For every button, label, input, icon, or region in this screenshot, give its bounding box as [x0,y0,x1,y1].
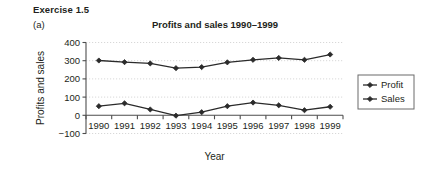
data-point-sales [225,60,230,65]
y-tick-label: 300 [64,55,80,66]
data-point-sales [250,57,255,62]
x-tick-labels: 1990199119921993199419951996199719981999 [88,120,340,131]
y-tick-label: 100 [64,92,80,103]
data-point-sales [96,58,101,63]
data-point-sales [276,55,281,60]
x-tick-label: 1998 [294,120,315,131]
data-point-profit [148,107,153,112]
x-tick-label: 1996 [242,120,263,131]
data-point-profit [302,108,307,113]
data-point-sales [199,64,204,69]
x-tick-label: 1990 [88,120,109,131]
data-point-profit [250,100,255,105]
x-axis-title: Year [204,151,225,162]
legend-label-profit: Profit [381,79,404,90]
x-tick-label: 1999 [320,120,341,131]
data-point-profit [96,104,101,109]
y-axis [83,43,87,134]
data-point-profit [276,103,281,108]
y-tick-label: 0 [75,110,80,121]
x-tick-label: 1991 [114,120,135,131]
series-line-sales [99,55,330,69]
series-line-profit [99,103,330,116]
line-chart: 4003002001000−100 1990199119921993199419… [0,0,439,169]
y-tick-label: −100 [59,128,80,139]
figure-page: Exercise 1.5 (a) Profits and sales 1990–… [0,0,439,169]
x-tick-label: 1994 [191,120,212,131]
x-axis [86,115,343,119]
x-tick-label: 1993 [165,120,186,131]
data-point-profit [199,110,204,115]
y-tick-label: 400 [64,37,80,48]
data-point-sales [328,52,333,57]
data-point-sales [302,57,307,62]
x-tick-label: 1995 [217,120,238,131]
legend-label-sales: Sales [381,93,405,104]
data-point-profit [122,101,127,106]
data-point-sales [148,61,153,66]
legend: ProfitSales [358,75,414,109]
data-point-sales [173,66,178,71]
y-tick-labels: 4003002001000−100 [59,37,80,139]
data-point-profit [328,104,333,109]
data-point-profit [173,113,178,118]
data-point-profit [225,104,230,109]
x-tick-label: 1997 [268,120,289,131]
y-axis-title: Profits and sales [35,51,46,125]
y-tick-label: 200 [64,73,80,84]
x-tick-label: 1992 [140,120,161,131]
series-lines [99,55,330,116]
